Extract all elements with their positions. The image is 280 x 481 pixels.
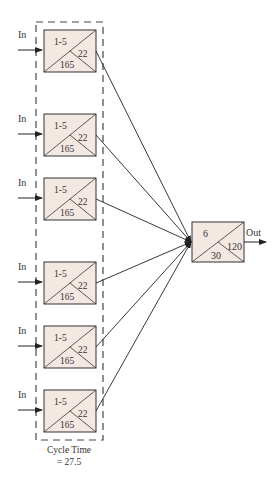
- input-label: In: [18, 29, 26, 40]
- station-right-value: 22: [78, 281, 88, 291]
- station-top-value: 1-5: [54, 37, 67, 47]
- station-top-value: 1-5: [54, 397, 67, 407]
- station-bottom-value: 165: [60, 292, 75, 302]
- station-bottom-value: 165: [60, 208, 75, 218]
- input-label: In: [18, 389, 26, 400]
- output-station: 6 120 30: [192, 222, 244, 262]
- station-top-value: 1-5: [54, 185, 67, 195]
- flow-connector: [96, 242, 191, 411]
- process-flow-diagram: 1-522165In1-522165In1-522165In1-522165In…: [0, 0, 280, 481]
- parallel-group-boundary: [36, 22, 103, 440]
- station-right-value: 22: [78, 197, 88, 207]
- station-bottom-value: 165: [60, 144, 75, 154]
- station-bottom-value: 165: [60, 420, 75, 430]
- station-top-value: 1-5: [54, 269, 67, 279]
- input-label: In: [18, 113, 26, 124]
- station-right-value: 22: [78, 345, 88, 355]
- flow-connector: [96, 135, 191, 242]
- station-top-value: 1-5: [54, 121, 67, 131]
- parallel-station: 1-522165In: [18, 177, 191, 242]
- input-label: In: [18, 261, 26, 272]
- flow-connector: [96, 199, 191, 242]
- station-bottom-value: 165: [60, 60, 75, 70]
- input-label: In: [18, 177, 26, 188]
- station-right-value: 22: [78, 49, 88, 59]
- output-top-value: 6: [203, 228, 208, 239]
- output-bottom-value: 30: [211, 250, 221, 261]
- parallel-station: 1-522165In: [18, 242, 191, 368]
- output-label: Out: [246, 227, 261, 238]
- parallel-station: 1-522165In: [18, 242, 191, 304]
- cycle-time-caption-line1: Cycle Time: [47, 445, 91, 455]
- station-right-value: 22: [78, 409, 88, 419]
- station-bottom-value: 165: [60, 356, 75, 366]
- flow-connector: [96, 242, 191, 347]
- flow-connector: [96, 51, 191, 242]
- station-top-value: 1-5: [54, 333, 67, 343]
- input-label: In: [18, 325, 26, 336]
- station-right-value: 22: [78, 133, 88, 143]
- flow-connector: [96, 242, 191, 283]
- cycle-time-caption-line2: = 27.5: [57, 457, 82, 467]
- output-right-value: 120: [227, 241, 242, 252]
